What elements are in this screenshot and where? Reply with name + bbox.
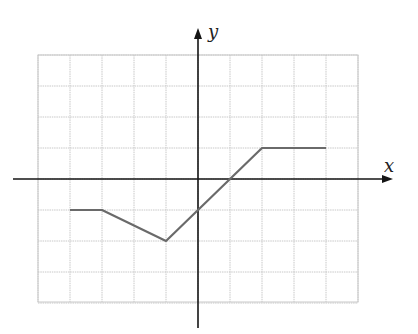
y-axis-arrow-icon	[194, 28, 202, 39]
y-axis-label: y	[207, 21, 219, 42]
x-axis-label: x	[384, 155, 394, 176]
x-axis-arrow-icon	[382, 175, 393, 183]
function-graph: x y	[0, 0, 418, 334]
